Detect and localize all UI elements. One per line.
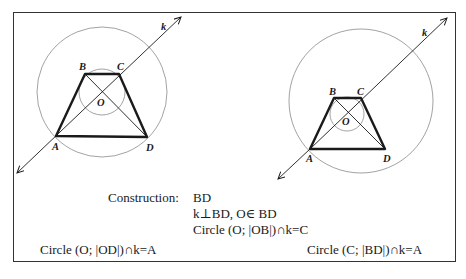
line-label-k: k [422, 27, 428, 38]
line-k-tail [17, 132, 60, 173]
point-label-o: O [97, 97, 105, 108]
construction-heading: Construction: [108, 190, 179, 205]
point-label-b: B [78, 61, 86, 72]
point-label-d: D [145, 142, 154, 153]
right-diagram: B C O A D k [278, 18, 447, 179]
point-label-c: C [357, 86, 365, 97]
point-label-d: D [382, 153, 391, 164]
left-caption: Circle (O; |OD|)∩k=A [40, 242, 157, 257]
point-label-a: A [51, 141, 59, 152]
outer-circle-bd [289, 29, 433, 173]
line-label-k: k [161, 21, 167, 32]
diagonal-bd [85, 74, 147, 137]
construction-figure: B C O A D k B C O A D k [0, 0, 466, 279]
construction-step-1: BD [193, 190, 211, 205]
construction-step-2: k⊥BD, O∈ BD [193, 206, 277, 221]
point-label-c: C [117, 61, 125, 72]
left-diagram: B C O A D k [17, 17, 181, 173]
point-label-o: O [342, 116, 350, 127]
right-caption: Circle (C; |BD|)∩k=A [307, 242, 422, 257]
point-label-a: A [305, 153, 313, 164]
construction-step-3: Circle (O; |OB|)∩k=C [193, 222, 308, 237]
point-label-b: B [328, 86, 336, 97]
